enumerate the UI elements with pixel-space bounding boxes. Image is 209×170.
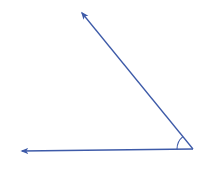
angle-diagram	[0, 0, 209, 170]
horizontal-ray	[22, 149, 193, 151]
diagonal-ray	[82, 13, 193, 149]
angle-arc-marker	[177, 137, 183, 150]
